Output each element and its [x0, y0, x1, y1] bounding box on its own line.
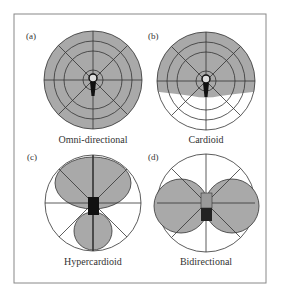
panel-tag-a: (a) [26, 31, 36, 41]
caption-cardioid: Cardioid [189, 134, 224, 145]
caption-hypercardioid: Hypercardioid [64, 256, 122, 267]
caption-omnidirectional: Omni-directional [59, 134, 128, 145]
polar-patterns-figure: (a) Omni-directional (b) [0, 0, 281, 296]
bidirectional-right-lobe [205, 179, 259, 233]
panel-tag-d: (d) [148, 152, 159, 162]
panel-tag-c: (c) [27, 152, 37, 162]
bidirectional-left-lobe [154, 179, 208, 233]
panel-tag-b: (b) [148, 31, 159, 41]
microphone-icon [201, 193, 212, 221]
microphone-icon [88, 197, 99, 215]
caption-bidirectional: Bidirectional [180, 256, 232, 267]
